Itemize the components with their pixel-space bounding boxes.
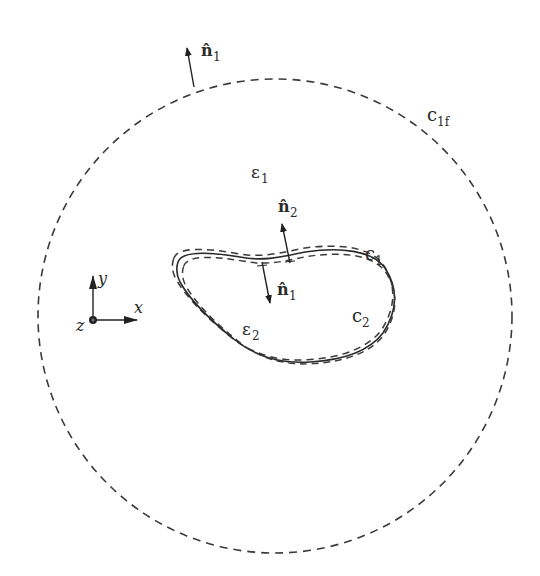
c2-symbol: c	[352, 305, 362, 326]
epsilon1-symbol: ε	[251, 162, 260, 182]
coordinate-axes: y x z	[75, 269, 143, 335]
n2-symbol: n̂	[278, 197, 290, 216]
outer-normal-label: n̂ 1	[201, 41, 221, 64]
c1-symbol: c	[365, 243, 375, 264]
y-axis-label: y	[97, 269, 108, 288]
n1-symbol: n̂	[277, 280, 289, 299]
normal-n1-arrow	[257, 262, 270, 303]
x-axis-label: x	[134, 298, 143, 317]
z-axis-label: z	[75, 316, 85, 335]
c1f-subscript: 1f	[437, 115, 451, 129]
n1-subscript: 1	[289, 289, 297, 303]
epsilon2-symbol: ε	[242, 319, 251, 339]
epsilon1-subscript: 1	[261, 172, 269, 186]
region-epsilon-2-label: ε 2	[242, 319, 260, 343]
diagram-canvas: n̂ 1 c 1f ε 1 n̂ 2 n̂ 1 c 1	[0, 0, 540, 576]
contour-c1-label: c 1	[365, 243, 383, 268]
outer-contour-label: c 1f	[427, 104, 451, 129]
c1-subscript: 1	[375, 254, 383, 268]
c2-subscript: 2	[362, 316, 370, 330]
normal-n1-label: n̂ 1	[277, 280, 297, 303]
c1f-symbol: c	[427, 104, 437, 125]
epsilon2-subscript: 2	[252, 329, 260, 343]
n2-subscript: 2	[290, 206, 298, 220]
normal-n2-label: n̂ 2	[278, 197, 298, 220]
outer-normal-subscript: 1	[213, 50, 221, 64]
normal-n2-arrow	[282, 224, 295, 263]
outer-contour-c1f	[38, 79, 512, 553]
outer-normal-symbol: n̂	[201, 41, 213, 60]
contour-c2-label: c 2	[352, 305, 370, 330]
outer-normal-arrow	[187, 48, 194, 87]
region-epsilon-1-label: ε 1	[251, 162, 269, 186]
